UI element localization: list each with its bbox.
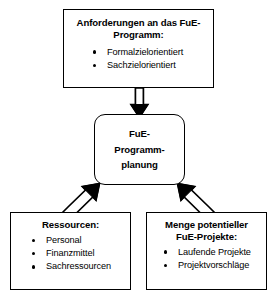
diagram-canvas: Anforderungen an das FuE-Programm: Forma…	[0, 0, 276, 297]
box-projects-title-line2: FuE-Projekte:	[151, 231, 262, 243]
box-planning-line3: planung	[114, 157, 164, 173]
list-item-label: Sachzielorientiert	[107, 59, 176, 72]
list-item: Projektvorschläge	[164, 259, 262, 272]
list-item: Sachzielorientiert	[93, 59, 207, 72]
bullet-icon	[32, 265, 35, 268]
box-requirements-title: Anforderungen an das FuE-Programm:	[70, 17, 207, 42]
box-projects-title-line1: Menge potentieller	[151, 219, 262, 231]
box-planning-line2: Programm-	[114, 142, 164, 158]
box-planning-line1: FuE-	[114, 126, 164, 142]
list-item-label: Sachressourcen	[46, 260, 111, 273]
box-resources-list: Personal Finanzmittel Sachressourcen	[32, 234, 125, 273]
bullet-icon	[93, 50, 96, 53]
bullet-icon	[32, 252, 35, 255]
box-resources: Ressourcen: Personal Finanzmittel Sachre…	[10, 212, 131, 290]
box-requirements-list: Formalzielorientiert Sachzielorientiert	[93, 46, 207, 72]
list-item: Sachressourcen	[32, 260, 125, 273]
list-item: Laufende Projekte	[164, 246, 262, 259]
bullet-icon	[93, 64, 96, 67]
box-planning-text: FuE- Programm- planung	[114, 126, 164, 173]
list-item-label: Personal	[46, 234, 81, 247]
list-item: Finanzmittel	[32, 247, 125, 260]
box-resources-title: Ressourcen:	[16, 219, 125, 231]
bullet-icon	[164, 264, 167, 267]
box-projects-list: Laufende Projekte Projektvorschläge	[164, 246, 262, 272]
list-item-label: Finanzmittel	[46, 247, 94, 260]
list-item-label: Formalzielorientiert	[107, 46, 183, 59]
box-planning: FuE- Programm- planung	[94, 114, 185, 185]
box-projects-title: Menge potentieller FuE-Projekte:	[151, 219, 262, 244]
box-requirements: Anforderungen an das FuE-Programm: Forma…	[63, 9, 214, 88]
list-item: Formalzielorientiert	[93, 46, 207, 59]
bullet-icon	[164, 250, 167, 253]
bullet-icon	[32, 239, 35, 242]
list-item-label: Projektvorschläge	[178, 259, 249, 272]
list-item-label: Laufende Projekte	[178, 246, 251, 259]
list-item: Personal	[32, 234, 125, 247]
box-projects: Menge potentieller FuE-Projekte: Laufend…	[146, 212, 267, 290]
